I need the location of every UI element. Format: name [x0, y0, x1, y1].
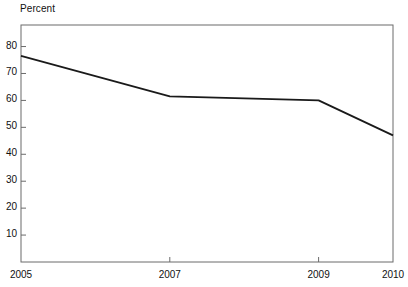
x-tick-label: 2007	[150, 269, 190, 280]
x-tick-label: 2009	[299, 269, 339, 280]
y-tick-label: 80	[1, 40, 17, 51]
y-tick-label: 60	[1, 93, 17, 104]
y-axis-tick-marks	[21, 47, 26, 236]
y-tick-label: 10	[1, 228, 17, 239]
y-tick-label: 40	[1, 147, 17, 158]
x-tick-label: 2005	[1, 269, 41, 280]
y-tick-label: 50	[1, 120, 17, 131]
x-axis-tick-marks	[170, 257, 319, 262]
line-chart: Percent 1020304050607080 200520072009201…	[0, 0, 408, 287]
plot-frame	[21, 25, 393, 262]
x-tick-label: 2010	[373, 269, 408, 280]
y-tick-label: 70	[1, 66, 17, 77]
y-tick-label: 30	[1, 174, 17, 185]
plot-area	[0, 0, 408, 287]
data-series-line	[21, 56, 393, 135]
y-tick-label: 20	[1, 201, 17, 212]
